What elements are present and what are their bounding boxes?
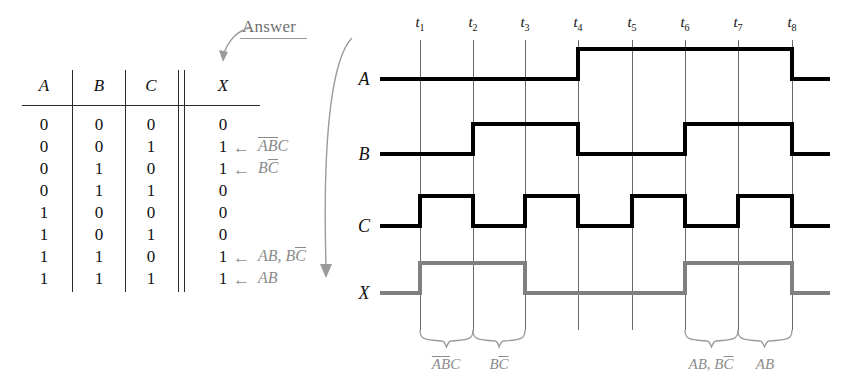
table-header-a: A bbox=[24, 76, 64, 96]
cell-x: 0 bbox=[203, 181, 243, 201]
cell-a: 1 bbox=[24, 247, 64, 267]
cell-c: 0 bbox=[131, 115, 171, 135]
brace-3 bbox=[685, 330, 738, 347]
cell-a: 0 bbox=[24, 115, 64, 135]
row-arrow-icon: ← bbox=[233, 249, 250, 266]
cell-a: 1 bbox=[24, 203, 64, 223]
table-header-b: B bbox=[79, 76, 119, 96]
table-divider-3b bbox=[184, 70, 185, 292]
cell-b: 0 bbox=[79, 203, 119, 223]
row-note-7: AB bbox=[258, 269, 278, 287]
table-header-x: X bbox=[203, 76, 243, 96]
cell-c: 1 bbox=[131, 181, 171, 201]
cell-x: 0 bbox=[203, 203, 243, 223]
table-divider-3a bbox=[178, 70, 179, 292]
timing-diagram: t1 t2 t3 t4 t5 t6 t7 t8 A B C X bbox=[330, 0, 849, 388]
cell-b: 0 bbox=[79, 225, 119, 245]
cell-a: 1 bbox=[24, 269, 64, 289]
cell-a: 0 bbox=[24, 181, 64, 201]
truth-table: A B C X 0 0 0 0 0 0 1 1 ← ABC 0 1 0 1 ← … bbox=[0, 0, 340, 388]
cell-c: 0 bbox=[131, 247, 171, 267]
brace-group bbox=[330, 330, 849, 356]
brace-label-4: AB bbox=[756, 356, 774, 373]
row-note-6: AB, BC bbox=[258, 247, 306, 265]
cell-c: 0 bbox=[131, 159, 171, 179]
figure-root: A B C X 0 0 0 0 0 0 1 1 ← ABC 0 1 0 1 ← … bbox=[0, 0, 849, 388]
cell-c: 1 bbox=[131, 137, 171, 157]
cell-b: 1 bbox=[79, 269, 119, 289]
cell-b: 1 bbox=[79, 181, 119, 201]
row-note-2: BC bbox=[258, 159, 278, 177]
cell-b: 0 bbox=[79, 115, 119, 135]
brace-2 bbox=[473, 330, 525, 347]
cell-c: 1 bbox=[131, 269, 171, 289]
cell-b: 0 bbox=[79, 137, 119, 157]
table-header-rule bbox=[22, 105, 260, 106]
cell-c: 1 bbox=[131, 225, 171, 245]
table-divider-1 bbox=[72, 70, 73, 292]
table-header-c: C bbox=[131, 76, 171, 96]
cell-x: 0 bbox=[203, 225, 243, 245]
cell-x: 0 bbox=[203, 115, 243, 135]
brace-label-1: ABC bbox=[432, 356, 460, 373]
brace-1 bbox=[420, 330, 473, 347]
row-arrow-icon: ← bbox=[233, 161, 250, 178]
brace-label-3: AB, BC bbox=[688, 356, 733, 373]
cell-b: 1 bbox=[79, 159, 119, 179]
row-arrow-icon: ← bbox=[233, 139, 250, 156]
cell-b: 1 bbox=[79, 247, 119, 267]
cell-a: 0 bbox=[24, 159, 64, 179]
brace-4 bbox=[738, 330, 792, 347]
row-note-1: ABC bbox=[258, 137, 288, 155]
cell-a: 0 bbox=[24, 137, 64, 157]
table-divider-2 bbox=[125, 70, 126, 292]
answer-arrow-to-table-x bbox=[212, 22, 252, 74]
cell-c: 0 bbox=[131, 203, 171, 223]
cell-a: 1 bbox=[24, 225, 64, 245]
brace-label-2: BC bbox=[489, 356, 508, 373]
row-arrow-icon: ← bbox=[233, 271, 250, 288]
